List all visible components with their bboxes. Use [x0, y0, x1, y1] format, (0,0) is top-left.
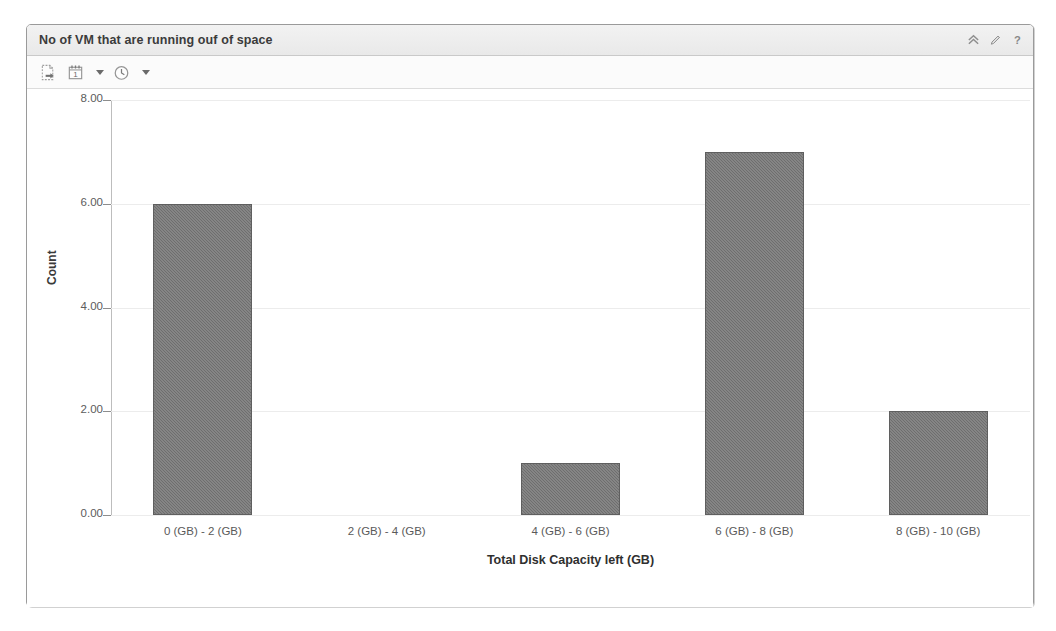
y-tick-label: 8.00 [57, 92, 103, 104]
svg-text:1: 1 [73, 69, 78, 78]
bar[interactable] [521, 463, 620, 515]
y-tick-mark [103, 515, 111, 516]
bar[interactable] [889, 411, 988, 515]
x-tick-label: 2 (GB) - 4 (GB) [295, 525, 479, 537]
x-tick-label: 4 (GB) - 6 (GB) [479, 525, 663, 537]
chart-toolbar: 1 [27, 56, 1033, 89]
y-tick-label: 6.00 [57, 196, 103, 208]
export-icon[interactable] [37, 60, 60, 84]
edit-icon[interactable] [989, 33, 1002, 47]
panel-header-tools: ? [967, 25, 1024, 55]
svg-text:?: ? [1014, 34, 1021, 46]
x-tick-label: 6 (GB) - 8 (GB) [662, 525, 846, 537]
y-axis-title: Count [45, 250, 59, 285]
y-tick-label: 2.00 [57, 403, 103, 415]
chart-panel: No of VM that are running ouf of space ? [26, 24, 1034, 607]
chart-canvas: Count 0.002.004.006.008.00 0 (GB) - 2 (G… [27, 89, 1033, 607]
y-tick-mark [103, 411, 111, 412]
help-icon[interactable]: ? [1011, 33, 1024, 47]
y-tick-label: 4.00 [57, 300, 103, 312]
y-tick-mark [103, 204, 111, 205]
y-tick-mark [103, 100, 111, 101]
y-tick-label: 0.00 [57, 507, 103, 519]
clock-icon[interactable] [110, 60, 133, 84]
bar[interactable] [705, 152, 804, 515]
page-title: No of VM that are running ouf of space [39, 33, 273, 47]
bar[interactable] [153, 204, 252, 515]
collapse-icon[interactable] [967, 33, 980, 47]
gridline [111, 515, 1030, 516]
y-tick-mark [103, 308, 111, 309]
clock-dropdown-caret[interactable] [142, 70, 150, 75]
plot-area [111, 100, 1030, 515]
x-axis-title: Total Disk Capacity left (GB) [111, 553, 1030, 567]
calendar-icon[interactable]: 1 [64, 60, 87, 84]
panel-header: No of VM that are running ouf of space ? [27, 25, 1033, 56]
x-tick-label: 0 (GB) - 2 (GB) [111, 525, 295, 537]
calendar-dropdown-caret[interactable] [96, 70, 104, 75]
x-tick-label: 8 (GB) - 10 (GB) [846, 525, 1030, 537]
